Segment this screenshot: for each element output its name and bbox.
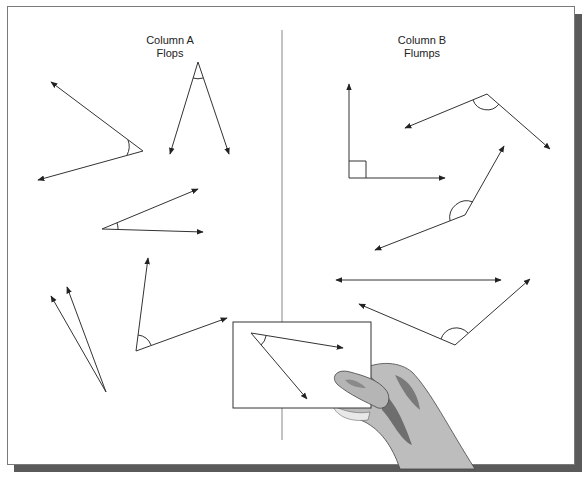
flop-angle-5 bbox=[136, 258, 227, 351]
flump-angle-3 bbox=[375, 146, 504, 250]
flump-angle-5 bbox=[359, 279, 530, 345]
held-card bbox=[233, 322, 371, 408]
flop-angle-2 bbox=[170, 62, 229, 154]
angle-diagram bbox=[0, 0, 583, 480]
flump-angle-1 bbox=[349, 84, 445, 178]
flop-angle-4 bbox=[51, 287, 106, 392]
flop-angle-3 bbox=[102, 189, 203, 232]
flump-angle-2 bbox=[405, 94, 550, 149]
flop-angle-1 bbox=[38, 82, 143, 180]
